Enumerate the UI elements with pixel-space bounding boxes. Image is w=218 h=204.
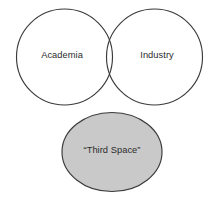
venn-diagram: Academia Industry “Third Space” xyxy=(0,0,218,204)
diagram-canvas: Academia Industry “Third Space” xyxy=(0,0,218,204)
industry-label: Industry xyxy=(140,50,174,60)
third-space-label: “Third Space” xyxy=(84,145,141,155)
academia-label: Academia xyxy=(41,50,84,60)
